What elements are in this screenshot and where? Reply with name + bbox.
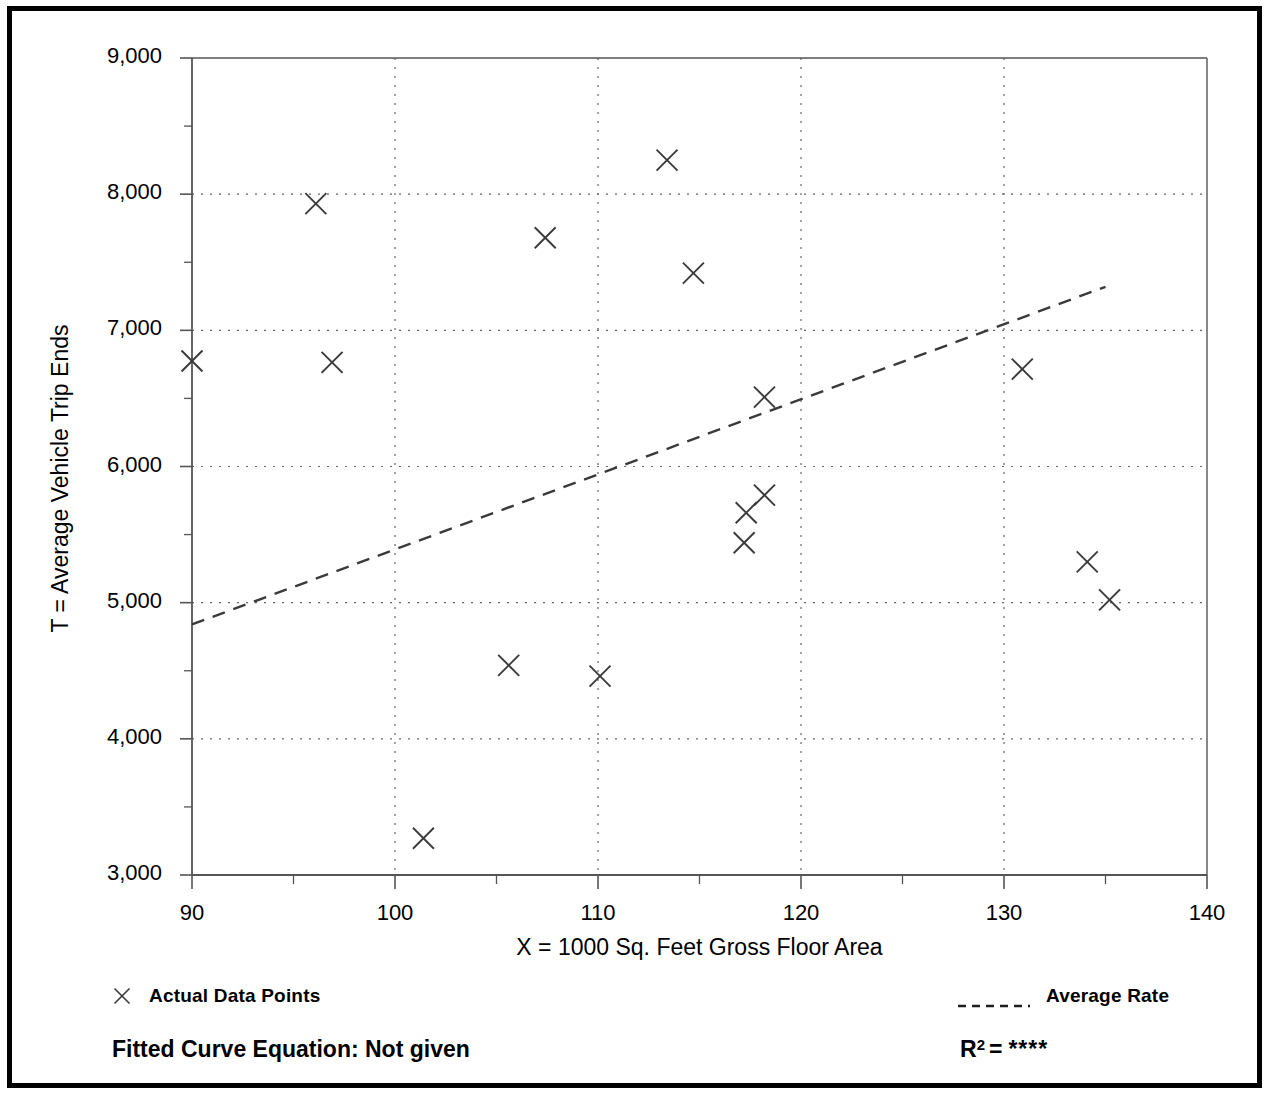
x-axis-title: X = 1000 Sq. Feet Gross Floor Area [192,934,1207,961]
legend-item-average-rate: Average Rate [958,985,1169,1007]
legend-label-average-rate: Average Rate [1046,985,1169,1007]
x-tick-label: 140 [1167,900,1247,926]
data-point-marker [657,150,678,171]
x-tick-label: 120 [761,900,841,926]
r-squared-annotation: R2=**** [960,1036,1048,1063]
data-point-marker [1012,359,1033,380]
r-squared-value: **** [1008,1036,1048,1063]
data-point-marker [734,532,755,553]
r-squared-symbol: R [960,1036,977,1063]
data-points-layer [182,150,1121,849]
x-tick-label: 90 [152,900,232,926]
data-point-marker [535,227,556,248]
data-point-marker [754,387,775,408]
y-tick-label: 3,000 [62,860,162,886]
gridlines [192,58,1207,875]
r-squared-equals: = [989,1036,1002,1063]
x-marker-icon [112,986,132,1006]
data-point-marker [736,502,757,523]
r-squared-exponent: 2 [977,1036,985,1053]
legend-label-actual-data-points: Actual Data Points [149,985,320,1007]
chart-legend: Actual Data Points Average Rate [0,985,1275,1021]
y-tick-label: 5,000 [62,588,162,614]
fitted-curve-equation: Fitted Curve Equation: Not given [112,1036,470,1063]
chart-page: T = Average Vehicle Trip Ends X = 1000 S… [0,0,1275,1099]
data-point-marker [683,263,704,284]
axis-ticks [180,58,1207,889]
data-point-marker [1099,589,1120,610]
legend-item-actual-data-points: Actual Data Points [112,985,320,1007]
data-point-marker [754,485,775,506]
data-point-marker [413,828,434,849]
chart-footer: Fitted Curve Equation: Not given R2=**** [0,1036,1275,1076]
dashed-line-icon [958,995,1030,998]
plot-area-wrapper: T = Average Vehicle Trip Ends X = 1000 S… [0,0,1275,1099]
plot-axes [192,58,1207,875]
x-tick-label: 110 [558,900,638,926]
y-tick-label: 9,000 [62,43,162,69]
data-point-marker [1077,551,1098,572]
data-point-marker [305,193,326,214]
y-tick-label: 6,000 [62,452,162,478]
data-point-marker [590,666,611,687]
y-tick-label: 7,000 [62,315,162,341]
y-tick-label: 4,000 [62,724,162,750]
data-point-marker [498,655,519,676]
data-point-marker [322,352,343,373]
x-tick-label: 130 [964,900,1044,926]
x-tick-label: 100 [355,900,435,926]
average-rate-line [192,287,1106,625]
y-tick-label: 8,000 [62,179,162,205]
